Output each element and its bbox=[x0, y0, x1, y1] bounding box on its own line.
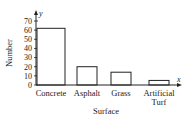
y-tick-label: 40 bbox=[24, 44, 32, 53]
x-axis-label: Surface bbox=[93, 106, 119, 116]
y-tick-label: 60 bbox=[24, 26, 32, 35]
y-tick-label: 0 bbox=[28, 81, 32, 90]
y-tick-label: 10 bbox=[24, 72, 32, 81]
x-axis-category-labels: ConcreteAsphaltGrassArtificialTurf bbox=[36, 88, 176, 107]
y-tick-label: 70 bbox=[24, 17, 32, 26]
y-axis-label: Number bbox=[4, 39, 14, 67]
bar-artificial-turf bbox=[149, 80, 169, 85]
y-axis-letter: y bbox=[38, 9, 43, 18]
bar-concrete bbox=[37, 28, 65, 85]
bars bbox=[37, 28, 169, 85]
x-tick-label: Turf bbox=[152, 97, 167, 107]
bar-grass bbox=[111, 72, 131, 85]
y-tick-label: 50 bbox=[24, 35, 32, 44]
x-tick-label: Asphalt bbox=[74, 88, 101, 98]
x-axis-letter: x bbox=[176, 75, 181, 84]
x-tick-label: Grass bbox=[111, 88, 130, 98]
y-tick-label: 20 bbox=[24, 63, 32, 72]
bar-chart: 010203040506070 ConcreteAsphaltGrassArti… bbox=[0, 0, 192, 121]
x-tick-label: Concrete bbox=[36, 88, 67, 98]
y-tick-label: 30 bbox=[24, 53, 32, 62]
y-axis-arrow-icon bbox=[34, 10, 38, 15]
bar-asphalt bbox=[77, 67, 97, 85]
